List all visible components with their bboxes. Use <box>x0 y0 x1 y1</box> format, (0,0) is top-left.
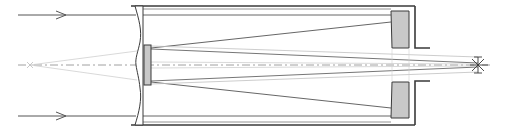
corrector-plate <box>135 6 143 125</box>
incoming-ray-top <box>18 11 136 19</box>
incoming-ray-bottom <box>18 112 136 120</box>
telescope-ray-diagram <box>0 0 505 134</box>
secondary-mirror <box>144 45 151 85</box>
focal-point-marker-icon <box>470 57 488 73</box>
